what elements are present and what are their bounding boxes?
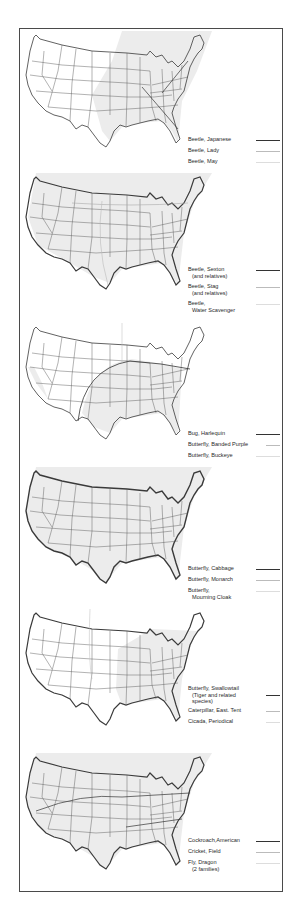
line-swatch-dark [256, 569, 280, 570]
line-swatch-dark [256, 434, 280, 435]
map-legend: Beetle, Sexton(and relatives) Beetle, St… [188, 266, 280, 317]
legend-label: Cockroach,American [188, 837, 240, 844]
legend-item: Cockroach,American [188, 837, 280, 848]
legend-item: Cicada, Periodical [188, 718, 280, 729]
legend-item: Beetle, Stag(and relatives) [188, 283, 280, 300]
legend-label: Butterfly, Cabbage [188, 565, 234, 572]
legend-label: Beetle, Japanese [188, 136, 231, 143]
map-legend: Cockroach,American Cricket, Field Fly, D… [188, 837, 280, 876]
legend-item: Cricket, Field [188, 848, 280, 859]
legend-label: Fly, Dragon(2 families) [188, 859, 219, 872]
map-panel-2: Beetle, Sexton(and relatives) Beetle, St… [20, 173, 284, 317]
map-panel-4: Butterfly, Cabbage Butterfly, Monarch Bu… [20, 461, 284, 605]
line-swatch-dark [256, 270, 280, 271]
legend-label: Caterpillar, East. Tent [188, 707, 241, 714]
legend-item: Beetle, May [188, 158, 280, 169]
line-swatch-dark [266, 695, 280, 696]
legend-item: Bug, Harlequin [188, 430, 280, 441]
line-swatch-light [256, 863, 280, 864]
map-legend: Butterfly, Cabbage Butterfly, Monarch Bu… [188, 565, 280, 604]
line-swatch-light [256, 456, 280, 457]
legend-label: Butterfly,Mourning Cloak [188, 587, 231, 600]
map-panel-3: Bug, Harlequin Butterfly, Banded Purple … [20, 317, 284, 461]
legend-item: Beetle,Water Scavenger [188, 300, 280, 317]
line-swatch-dark [256, 140, 280, 141]
legend-label: Beetle,Water Scavenger [188, 300, 235, 313]
legend-item: Butterfly, Monarch [188, 576, 280, 587]
map-legend: Bug, Harlequin Butterfly, Banded Purple … [188, 430, 280, 463]
us-range-map [22, 173, 212, 295]
us-range-map [22, 753, 212, 875]
legend-label: Bug, Harlequin [188, 430, 225, 437]
legend-item: Butterfly, Cabbage [188, 565, 280, 576]
legend-item: Beetle, Sexton(and relatives) [188, 266, 280, 283]
legend-label: Cicada, Periodical [188, 718, 233, 725]
line-swatch-light [256, 591, 280, 592]
legend-label: Butterfly, Monarch [188, 576, 233, 583]
legend-label: Butterfly, Buckeye [188, 452, 233, 459]
line-swatch-light [266, 722, 280, 723]
line-swatch-mid [256, 852, 280, 853]
legend-item: Butterfly,Mourning Cloak [188, 587, 280, 604]
legend-label: Beetle, Sexton(and relatives) [188, 266, 227, 279]
legend-label: Butterfly, Banded Purple [188, 441, 248, 448]
us-range-map [22, 323, 212, 445]
us-range-map [22, 609, 212, 731]
legend-label: Cricket, Field [188, 848, 221, 855]
legend-label: Beetle, Lady [188, 147, 219, 154]
line-swatch-mid [266, 445, 280, 446]
line-swatch-mid [266, 711, 280, 712]
line-swatch-mid [256, 151, 280, 152]
legend-label: Butterfly, Swallowtail(Tiger and related… [188, 685, 254, 705]
map-legend: Beetle, Japanese Beetle, Lady Beetle, Ma… [188, 136, 280, 169]
legend-item: Fly, Dragon(2 families) [188, 859, 280, 876]
line-swatch-mid [256, 580, 280, 581]
legend-item: Caterpillar, East. Tent [188, 707, 280, 718]
plate-frame: Beetle, Japanese Beetle, Lady Beetle, Ma… [19, 28, 283, 892]
line-swatch-dark [256, 841, 280, 842]
map-panel-5: Butterfly, Swallowtail(Tiger and related… [20, 605, 284, 749]
us-range-map [22, 467, 212, 589]
legend-label: Beetle, Stag(and relatives) [188, 283, 227, 296]
line-swatch-mid [256, 287, 280, 288]
legend-label: Beetle, May [188, 158, 218, 165]
legend-item: Butterfly, Swallowtail(Tiger and related… [188, 685, 280, 707]
line-swatch-light [256, 162, 280, 163]
legend-item: Beetle, Lady [188, 147, 280, 158]
map-legend: Butterfly, Swallowtail(Tiger and related… [188, 685, 280, 729]
line-swatch-light [256, 304, 280, 305]
map-panel-6: Cockroach,American Cricket, Field Fly, D… [20, 749, 284, 893]
legend-item: Butterfly, Banded Purple [188, 441, 280, 452]
legend-item: Beetle, Japanese [188, 136, 280, 147]
us-range-map [22, 31, 212, 153]
map-panel-1: Beetle, Japanese Beetle, Lady Beetle, Ma… [20, 29, 284, 173]
